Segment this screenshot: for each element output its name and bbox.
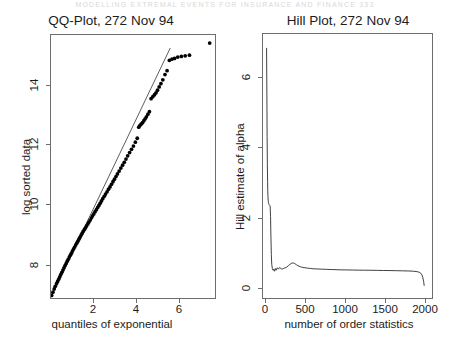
qq-plot-frame: [50, 34, 216, 299]
hill-y-axis-title: Hill estimate of alpha: [234, 123, 246, 230]
qq-plot-panel: QQ-Plot, 272 Nov 94 14 12 10 8 2 4 6 qua…: [0, 0, 228, 351]
qq-ytick-mark-8: [46, 265, 50, 266]
qq-y-axis-title: log sorted data: [20, 139, 32, 215]
hill-estimate-curve: [267, 48, 425, 286]
hill-xtick-label-500: 500: [287, 303, 323, 315]
hill-ytick-mark-0: [258, 288, 262, 289]
qq-ytick-label-8: 8: [27, 254, 41, 276]
qq-xtick-label-2: 2: [75, 303, 111, 315]
qq-ytick-mark-10: [46, 204, 50, 205]
qq-ytick-mark-14: [46, 85, 50, 86]
qq-ytick-mark-12: [46, 144, 50, 145]
qq-plot-canvas: [51, 35, 215, 298]
hill-xtick-label-2000: 2000: [407, 303, 443, 315]
hill-ytick-mark-6: [258, 77, 262, 78]
qq-ytick-label-14: 14: [27, 74, 41, 96]
qq-xtick-label-4: 4: [118, 303, 154, 315]
hill-xtick-label-0: 0: [247, 303, 283, 315]
qq-plot-title: QQ-Plot, 272 Nov 94: [0, 13, 225, 28]
hill-plot-canvas: [263, 34, 432, 298]
hill-x-axis-title: number of order statistics: [235, 318, 450, 330]
qq-data-points: [51, 41, 212, 297]
hill-plot-frame: [262, 33, 433, 299]
qq-xtick-label-6: 6: [161, 303, 197, 315]
hill-ytick-mark-2: [258, 218, 262, 219]
hill-xtick-label-1000: 1000: [327, 303, 363, 315]
hill-plot-title: Hill Plot, 272 Nov 94: [234, 13, 450, 28]
hill-ytick-label-0: 0: [239, 277, 253, 299]
qq-x-axis-title: quantiles of exponential: [0, 318, 226, 330]
hill-ytick-mark-4: [258, 147, 262, 148]
hill-xtick-label-1500: 1500: [367, 303, 403, 315]
hill-plot-panel: Hill Plot, 272 Nov 94 6 4 2 0 0 500 1000…: [222, 0, 450, 351]
hill-ytick-label-6: 6: [239, 66, 253, 88]
